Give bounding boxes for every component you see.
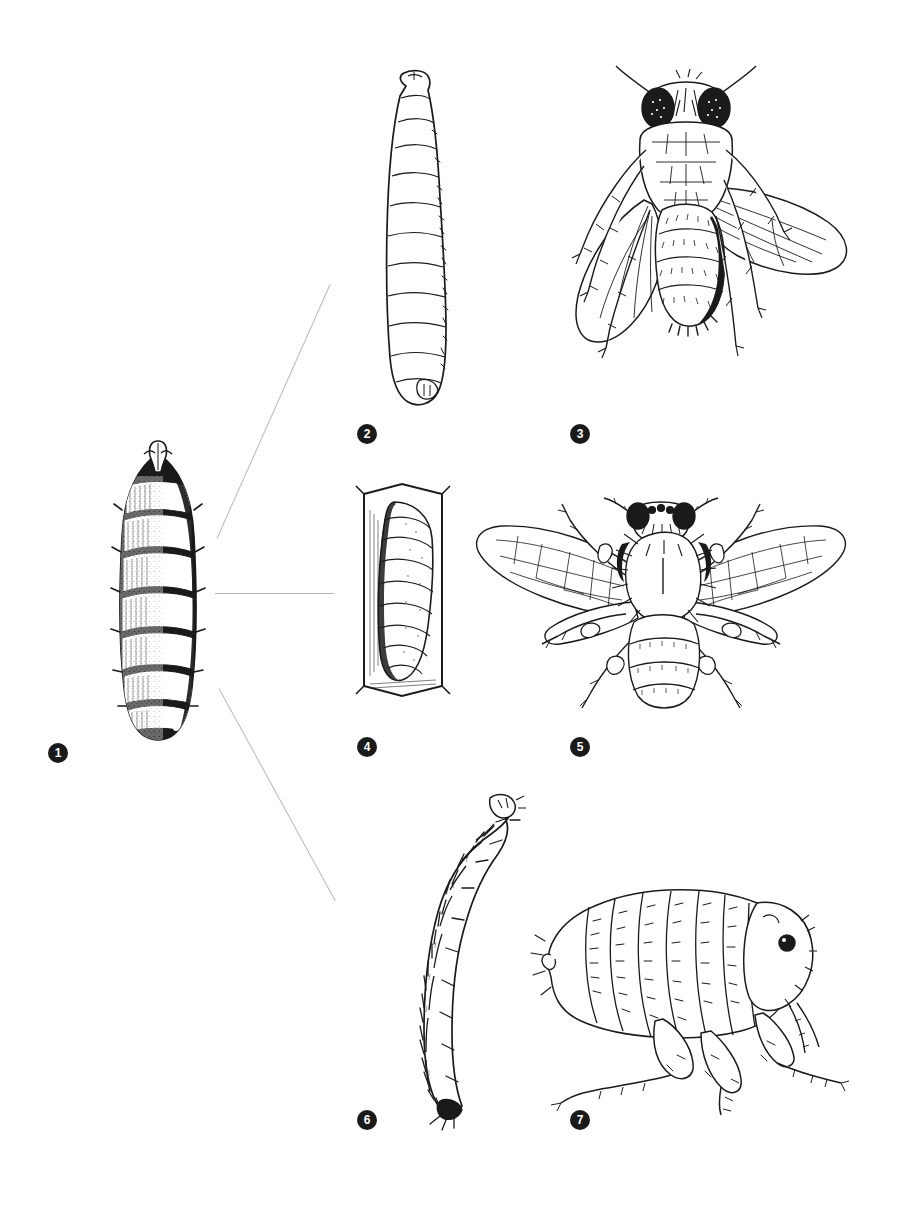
figure-label-5: 5	[570, 737, 590, 757]
figure-adult-flea	[505, 865, 855, 1115]
figure-label-3: 3	[570, 424, 590, 444]
figure-label-7: 7	[570, 1110, 590, 1130]
illustration-plate: 1	[0, 0, 908, 1218]
figure-puparium	[78, 440, 238, 760]
figure-label-4: 4	[357, 737, 377, 757]
figure-adult-bee	[466, 482, 856, 712]
figure-bee-larva-in-cell	[350, 480, 460, 705]
figure-label-1: 1	[48, 743, 68, 763]
figure-label-6: 6	[357, 1110, 377, 1130]
figure-fly-larva	[358, 68, 478, 413]
figure-adult-fly	[540, 70, 860, 400]
figure-label-2: 2	[357, 424, 377, 444]
